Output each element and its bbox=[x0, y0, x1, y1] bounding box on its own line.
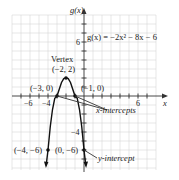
x-axis-label: x bbox=[162, 98, 167, 108]
point-left bbox=[46, 148, 50, 152]
x-tick-label: −6 bbox=[24, 99, 33, 108]
y-tick-label: 6 bbox=[76, 38, 80, 47]
parabola-chart: g(x) x g(x) = −2x² − 8x − 6 Vertex (−2, … bbox=[0, 0, 179, 180]
y-tick-label: −4 bbox=[71, 128, 80, 137]
vertex-coords: (−2, 2) bbox=[52, 64, 75, 74]
x-intercepts-annotation: x-intercepts bbox=[95, 105, 136, 115]
y-axis-label: g(x) bbox=[70, 5, 84, 15]
y-intercept-coords: (0, −6) bbox=[55, 145, 78, 155]
equation-label: g(x) = −2x² − 8x − 6 bbox=[87, 32, 157, 42]
x-intercept-right-label: (−1, 0) bbox=[81, 83, 104, 93]
y-intercept-leader bbox=[84, 150, 97, 158]
vertex-point bbox=[64, 76, 68, 80]
y-intercept-annotation: y-intercept bbox=[97, 153, 135, 163]
vertex-title: Vertex bbox=[51, 54, 74, 64]
x-intercept-left-label: (−3, 0) bbox=[30, 83, 53, 93]
x-axis bbox=[12, 94, 168, 99]
x-tick-label: −4 bbox=[42, 99, 51, 108]
x-tick-label: 6 bbox=[136, 99, 140, 108]
point-left-label: (−4, −6) bbox=[14, 145, 42, 155]
